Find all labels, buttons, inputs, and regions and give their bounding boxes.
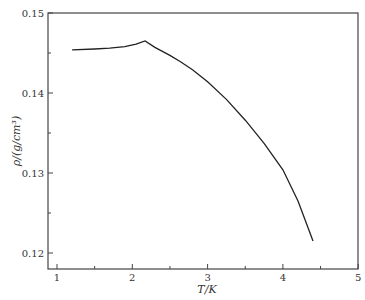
density-temperature-chart: 0.120.130.140.15 12345 T/K ρ/(g/cm³): [0, 0, 365, 300]
y-tick-label: 0.12: [22, 248, 44, 259]
x-axis: 12345: [54, 264, 362, 283]
x-axis-label: T/K: [197, 283, 217, 296]
x-tick-label: 4: [280, 272, 286, 283]
y-tick-label: 0.14: [22, 88, 44, 99]
y-axis-label: ρ/(g/cm³): [10, 116, 23, 168]
x-tick-label: 1: [54, 272, 60, 283]
x-tick-label: 3: [204, 272, 210, 283]
density-curve: [72, 41, 313, 241]
x-tick-label: 2: [129, 272, 135, 283]
y-tick-label: 0.15: [22, 8, 44, 19]
plot-frame: [48, 13, 358, 269]
y-tick-label: 0.13: [22, 168, 44, 179]
x-tick-label: 5: [355, 272, 361, 283]
